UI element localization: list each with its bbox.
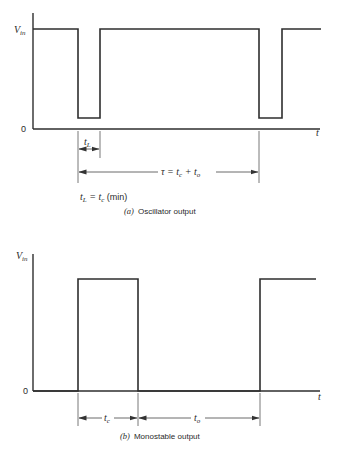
panel-a-zero-label: 0: [21, 124, 26, 134]
panel-b-zero-label: 0: [23, 386, 28, 396]
panel-b-caption: (b)Monostable output: [120, 431, 201, 441]
panel-a-t-label: t: [316, 127, 319, 138]
panel-a-waveform: [33, 29, 321, 118]
panel-b-tc-label: tc: [104, 412, 111, 425]
panel-b-vin-label: Vin: [16, 250, 28, 263]
panel-a-tau-label: τ = tc + to: [161, 166, 201, 179]
panel-a-tl-equation: tL = tc (min): [80, 191, 127, 204]
panel-a-caption: (a)Oscillator output: [124, 206, 197, 216]
timing-diagram: Vin 0 t tL τ = tc + to tL = tc (min) (a)…: [0, 0, 344, 456]
panel-b-waveform: [33, 279, 316, 391]
panel-a-tl-label: tL: [84, 136, 91, 149]
panel-b-to-label: to: [194, 412, 201, 425]
panel-b-monostable-output: Vin 0 t tc to (b)Monostable output: [16, 250, 321, 441]
panel-b-t-label: t: [318, 391, 321, 402]
panel-a-vin-label: Vin: [14, 24, 26, 37]
panel-a-oscillator-output: Vin 0 t tL τ = tc + to tL = tc (min) (a)…: [14, 13, 321, 216]
